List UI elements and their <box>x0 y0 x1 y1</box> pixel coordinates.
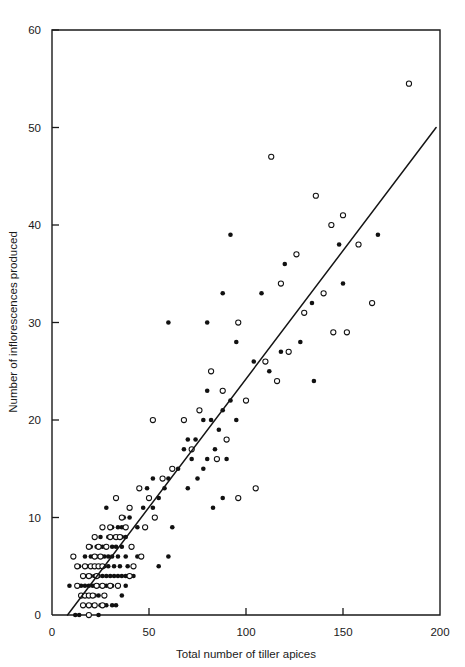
data-point <box>151 476 156 481</box>
data-point <box>205 320 210 325</box>
data-point <box>337 242 342 247</box>
data-point <box>331 330 336 335</box>
data-point <box>220 496 225 501</box>
data-point <box>213 447 218 452</box>
data-point <box>278 281 283 286</box>
data-point <box>113 495 118 500</box>
data-point <box>104 544 109 549</box>
data-point <box>269 154 274 159</box>
data-point <box>100 603 105 608</box>
data-point <box>102 593 107 598</box>
series-open-circle <box>71 81 412 618</box>
data-point <box>127 505 132 510</box>
data-point <box>220 291 225 296</box>
data-point <box>137 486 142 491</box>
data-point <box>186 486 191 491</box>
y-tick-label: 60 <box>28 24 41 36</box>
data-point <box>208 369 213 374</box>
data-point <box>98 554 103 559</box>
data-point <box>298 340 303 345</box>
data-point <box>211 505 216 510</box>
data-point <box>96 544 101 549</box>
data-point <box>220 388 225 393</box>
y-axis-title: Number of inflorescences produced <box>7 231 19 413</box>
x-tick-label: 100 <box>236 626 255 638</box>
data-point <box>156 564 161 569</box>
data-point <box>376 232 381 237</box>
data-point <box>253 486 258 491</box>
data-point <box>92 534 97 539</box>
data-point <box>217 427 222 432</box>
data-point <box>274 378 279 383</box>
data-point <box>127 573 132 578</box>
data-point <box>86 612 91 617</box>
data-point <box>80 603 85 608</box>
data-point <box>146 495 151 500</box>
data-point <box>117 534 122 539</box>
data-point <box>166 554 171 559</box>
data-point <box>160 476 165 481</box>
data-point <box>356 242 361 247</box>
data-point <box>129 544 134 549</box>
data-points-layer <box>67 81 411 618</box>
data-point <box>86 573 91 578</box>
data-point <box>263 359 268 364</box>
data-point <box>236 320 241 325</box>
regression-line-layer <box>68 128 437 616</box>
data-point <box>120 593 125 598</box>
data-point <box>96 613 101 618</box>
data-point <box>119 515 124 520</box>
regression-line <box>68 128 437 616</box>
scatter-plot-figure: 0102030405060050100150200 Total number o… <box>0 0 465 667</box>
data-point <box>201 466 206 471</box>
data-point <box>310 301 315 306</box>
data-point <box>83 554 88 559</box>
data-point <box>123 525 128 530</box>
data-point <box>329 222 334 227</box>
data-point <box>86 544 91 549</box>
data-point <box>115 583 120 588</box>
data-point <box>114 603 119 608</box>
data-point <box>100 525 105 530</box>
data-point <box>340 213 345 218</box>
data-point <box>193 437 198 442</box>
data-point <box>224 437 229 442</box>
data-point <box>123 583 128 588</box>
data-point <box>251 359 256 364</box>
data-point <box>205 388 210 393</box>
data-point <box>312 379 317 384</box>
data-point <box>77 613 82 618</box>
data-point <box>143 525 148 530</box>
x-tick-label: 200 <box>430 626 449 638</box>
data-point <box>125 564 130 569</box>
data-point <box>283 262 288 267</box>
data-point <box>82 564 87 569</box>
x-tick-label: 0 <box>49 626 55 638</box>
data-point <box>267 369 272 374</box>
data-point <box>259 291 264 296</box>
y-tick-label: 40 <box>28 219 41 231</box>
data-point <box>67 583 72 588</box>
data-point <box>75 583 80 588</box>
data-point <box>302 310 307 315</box>
data-point <box>108 583 113 588</box>
data-point <box>86 603 91 608</box>
data-point <box>228 232 233 237</box>
y-tick-label: 0 <box>35 609 41 621</box>
data-point <box>106 564 111 569</box>
data-point <box>370 300 375 305</box>
data-point <box>118 564 123 569</box>
data-point <box>182 447 187 452</box>
data-point <box>234 418 239 423</box>
y-tick-label: 10 <box>28 512 41 524</box>
chart-canvas: 0102030405060050100150200 Total number o… <box>0 0 465 667</box>
data-point <box>243 398 248 403</box>
data-point <box>75 564 80 569</box>
data-point <box>341 281 346 286</box>
data-point <box>92 554 97 559</box>
data-point <box>145 486 150 491</box>
data-point <box>201 418 206 423</box>
data-point <box>131 564 136 569</box>
tick-marks <box>52 30 343 615</box>
data-point <box>96 593 101 598</box>
